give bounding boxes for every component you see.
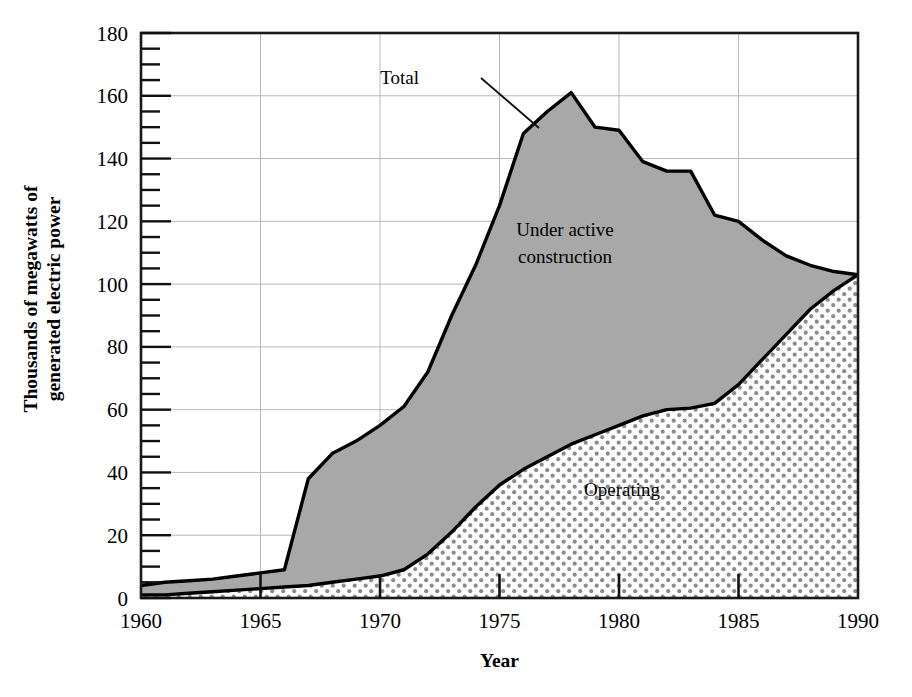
- annotation-operating: Operating: [584, 479, 660, 500]
- nuclear-capacity-area-chart: 020406080100120140160180 196019651970197…: [0, 0, 912, 697]
- x-tick-label: 1990: [837, 609, 879, 633]
- x-tick-label: 1960: [120, 609, 162, 633]
- annotation-total: Total: [380, 67, 419, 88]
- y-tick-label: 20: [107, 524, 128, 548]
- y-axis-title-line2: generated electric power: [42, 89, 65, 509]
- x-tick-label: 1975: [479, 609, 521, 633]
- y-axis-title: Thousands of megawatts of generated elec…: [19, 89, 65, 509]
- chart-figure: 020406080100120140160180 196019651970197…: [0, 0, 912, 697]
- x-axis-title: Year: [141, 650, 858, 672]
- x-tick-label: 1965: [240, 609, 282, 633]
- x-tick-label: 1985: [718, 609, 760, 633]
- y-tick-label: 0: [118, 587, 129, 611]
- y-tick-label: 100: [97, 273, 129, 297]
- y-tick-label: 180: [97, 22, 129, 46]
- y-tick-label: 140: [97, 147, 129, 171]
- y-tick-label: 120: [97, 210, 129, 234]
- annotation-under-construction-line1: Under active: [516, 219, 614, 240]
- y-tick-label: 160: [97, 84, 129, 108]
- y-tick-label: 60: [107, 398, 128, 422]
- y-axis-title-line1: Thousands of megawatts of: [19, 89, 42, 509]
- y-tick-label: 80: [107, 335, 128, 359]
- annotation-under-construction-line2: construction: [518, 246, 612, 267]
- x-tick-label: 1970: [359, 609, 401, 633]
- y-tick-label: 40: [107, 461, 128, 485]
- x-tick-label: 1980: [598, 609, 640, 633]
